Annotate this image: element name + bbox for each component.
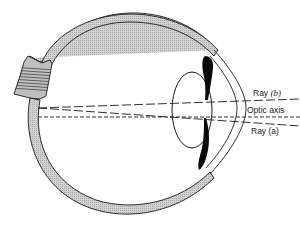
ray-a-label: Ray (a) — [251, 126, 279, 136]
sclera-band-lower — [28, 98, 214, 214]
optic-axis-label: Optic axis — [247, 105, 284, 115]
iris — [198, 56, 213, 170]
cornea-outer — [210, 50, 246, 174]
eye-diagram: Ray (b) Optic axis Ray (a) — [0, 0, 300, 229]
ray-b-label: Ray (b) — [253, 88, 281, 98]
iris-upper — [202, 56, 213, 100]
iris-lower — [198, 118, 209, 170]
optic-nerve — [10, 56, 56, 99]
